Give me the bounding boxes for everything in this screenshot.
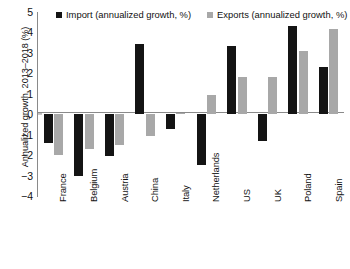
bar-exports: [268, 77, 277, 114]
x-axis-label: Poland: [302, 173, 313, 202]
y-tick-label: −1: [0, 129, 38, 141]
legend-label-import: Import (annualized growth, %): [66, 9, 191, 20]
y-tick-label: 1: [0, 88, 38, 100]
y-tick-label: 0: [0, 108, 38, 120]
x-axis-label: UK: [272, 189, 283, 202]
y-tick-label: 3: [0, 47, 38, 59]
bar-chart: Annualized growth, 2013–2018 (%) 543210−…: [0, 0, 350, 269]
bar-import: [258, 114, 267, 141]
x-axis-label: China: [149, 178, 160, 202]
y-tick-label: 5: [0, 6, 38, 18]
y-tick-label: 4: [0, 26, 38, 38]
bar-exports: [176, 113, 185, 114]
bar-exports: [54, 114, 63, 155]
bar-exports: [146, 114, 155, 135]
bar-exports: [299, 51, 308, 114]
x-axis-label: Austria: [119, 174, 130, 202]
legend-item-exports: Exports (annualized growth, %): [207, 9, 347, 20]
bar-import: [44, 114, 53, 143]
legend-swatch-exports: [207, 12, 213, 18]
x-axis-label: France: [57, 173, 68, 202]
x-axis-label: US: [241, 189, 252, 202]
bar-exports: [115, 114, 124, 145]
x-axis-label: Italy: [180, 185, 191, 202]
chart-legend: Import (annualized growth, %) Exports (a…: [56, 9, 347, 20]
y-tick-label: −2: [0, 149, 38, 161]
bar-import: [166, 114, 175, 128]
bar-exports: [85, 114, 94, 149]
x-axis-label: Spain: [333, 179, 344, 202]
legend-swatch-import: [56, 12, 62, 18]
bar-import: [288, 26, 297, 114]
bar-exports: [238, 77, 247, 114]
y-tick-label: 2: [0, 67, 38, 79]
bar-import: [319, 67, 328, 114]
y-tick-label: −4: [0, 190, 38, 202]
y-tick-label: −3: [0, 170, 38, 182]
bar-import: [135, 44, 144, 115]
bar-exports: [329, 29, 338, 114]
bar-import: [197, 114, 206, 165]
bar-exports: [207, 95, 216, 114]
legend-label-exports: Exports (annualized growth, %): [217, 9, 347, 20]
bar-import: [74, 114, 83, 175]
bar-import: [227, 46, 236, 114]
x-axis-label: Belgium: [88, 169, 99, 202]
x-axis-label: Netherlands: [210, 153, 221, 202]
bar-import: [105, 114, 114, 156]
legend-item-import: Import (annualized growth, %): [56, 9, 191, 20]
